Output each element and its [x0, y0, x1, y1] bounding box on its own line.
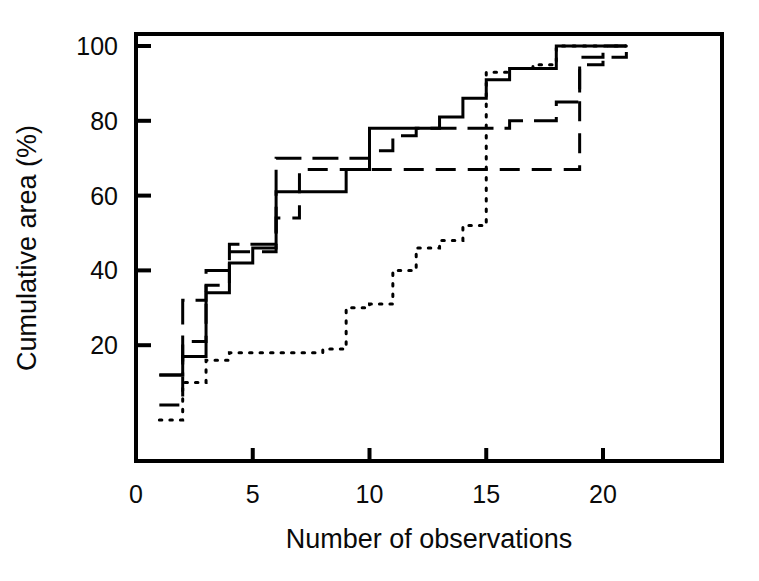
y-tick-label: 80: [90, 107, 118, 135]
x-tick-label: 10: [356, 480, 384, 508]
y-tick-label: 20: [90, 331, 118, 359]
y-axis-label: Cumulative area (%): [12, 125, 42, 371]
y-axis-ticks: [136, 46, 151, 345]
x-tick-label: 5: [246, 480, 260, 508]
y-tick-label: 60: [90, 182, 118, 210]
figure-canvas: 05101520 20406080100 Number of observati…: [0, 0, 759, 581]
y-tick-label: 100: [76, 32, 118, 60]
cumulative-area-chart: 05101520 20406080100 Number of observati…: [0, 0, 759, 581]
x-axis-label: Number of observations: [286, 524, 573, 554]
series-line-solid-curve: [159, 46, 626, 375]
x-tick-label: 0: [129, 480, 143, 508]
data-series-group: [159, 46, 626, 420]
x-tick-label: 20: [589, 480, 617, 508]
x-tick-label: 15: [472, 480, 500, 508]
y-tick-label: 40: [90, 256, 118, 284]
y-axis-tick-labels: 20406080100: [76, 32, 118, 359]
series-line-long-dash-curve: [159, 46, 626, 375]
x-axis-tick-labels: 05101520: [129, 480, 617, 508]
